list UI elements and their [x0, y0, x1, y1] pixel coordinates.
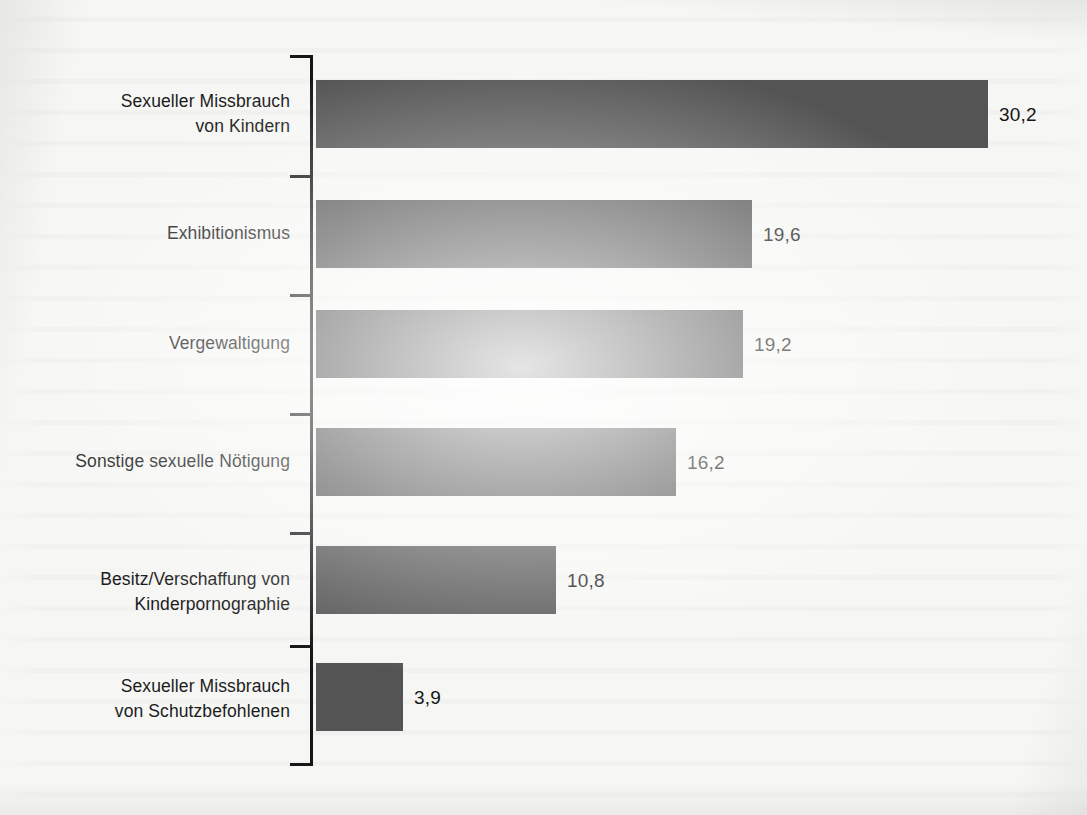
axis-tick-5 — [290, 645, 312, 648]
scanned-chart-page: Sexueller Missbrauch von Kindern 30,2 Ex… — [0, 0, 1087, 815]
axis-tick-2 — [290, 294, 312, 297]
bar-value-2: 19,2 — [754, 335, 792, 354]
category-label-0: Sexueller Missbrauch von Kindern — [20, 89, 290, 139]
axis-tick-1 — [290, 175, 312, 178]
bar-2 — [316, 310, 743, 378]
category-label-1: Exhibitionismus — [20, 221, 290, 246]
category-axis-spine — [310, 55, 313, 766]
bar-1 — [316, 200, 752, 268]
bar-5 — [316, 663, 403, 731]
bar-value-1: 19,6 — [763, 225, 801, 244]
horizontal-bar-chart: Sexueller Missbrauch von Kindern 30,2 Ex… — [0, 0, 1087, 815]
bar-3 — [316, 428, 676, 496]
bar-0 — [316, 80, 988, 148]
axis-tick-3 — [290, 413, 312, 416]
bar-value-4: 10,8 — [567, 571, 605, 590]
category-label-5: Sexueller Missbrauch von Schutzbefohlene… — [20, 674, 290, 724]
category-label-4: Besitz/Verschaffung von Kinderpornograph… — [20, 567, 290, 617]
axis-tick-6 — [290, 763, 312, 766]
category-label-2: Vergewaltigung — [20, 331, 290, 356]
axis-tick-0 — [290, 55, 312, 58]
bar-value-3: 16,2 — [687, 453, 725, 472]
bar-value-0: 30,2 — [999, 105, 1037, 124]
bar-value-5: 3,9 — [414, 688, 441, 707]
axis-tick-4 — [290, 532, 312, 535]
category-label-3: Sonstige sexuelle Nötigung — [10, 449, 290, 474]
bar-4 — [316, 546, 556, 614]
